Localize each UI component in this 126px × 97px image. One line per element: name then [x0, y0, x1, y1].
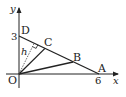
tick-label-x-6: 6 [95, 75, 101, 86]
point-label-C: C [44, 36, 52, 49]
x-axis-label: x [113, 75, 119, 86]
point-label-D: D [21, 24, 30, 37]
right-angle-mark [33, 45, 38, 49]
y-axis-label: y [9, 3, 16, 14]
point-label-O: O [8, 74, 17, 87]
tick-label-y-3: 3 [11, 31, 17, 42]
perpendicular-label-h: h [21, 46, 27, 57]
segment-DA [19, 36, 99, 74]
point-label-A: A [97, 62, 107, 75]
segment-OB [19, 62, 73, 74]
geometry-diagram: y x O D 3 C B A 6 h [0, 0, 126, 97]
point-label-B: B [73, 51, 81, 64]
